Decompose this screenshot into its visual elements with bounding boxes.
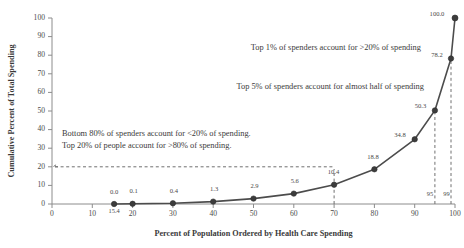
x-tick-label: 20 [129,209,137,218]
y-tick-label: 70 [37,69,45,78]
y-tick-label: 80 [37,50,45,59]
chart-annotations: Top 1% of spenders account for >20% of s… [62,43,425,150]
y-tick-label: 0 [41,199,45,208]
data-point [170,201,175,206]
data-point [432,108,437,113]
y-axis-title: Cumulative Percent of Total Spending [7,44,16,178]
y-tick-label: 60 [37,87,45,96]
special-x-labels: 15.4 95 99 [109,190,450,214]
y-tick-label: 90 [37,31,45,40]
y-tick-label: 40 [37,124,45,133]
y-axis-ticks: 0 10 20 30 40 50 60 70 80 90 100 [34,13,52,208]
annotation-bottom-80-percent: Bottom 80% of spenders account for <20% … [62,129,251,138]
data-point-label: 1.3 [210,185,219,192]
chart-container: 0 10 20 30 40 50 60 70 80 90 100 0 [0,0,464,248]
data-point-label: 18.8 [367,153,379,160]
data-point-label: 2.9 [250,182,259,189]
data-point [291,191,296,196]
x-tick-label: 30 [169,209,177,218]
x-tick-label: 60 [290,209,298,218]
data-point-label: 0.0 [110,188,119,195]
data-point-label: 50.3 [415,102,427,109]
special-x-label-95: 95 [427,190,433,197]
y-tick-label: 100 [34,13,46,22]
data-point-labels: 0.0 0.1 0.4 1.3 2.9 5.6 10.4 18.8 34.8 5… [110,10,445,195]
data-point-label: 0.4 [170,187,179,194]
data-point-label: 5.6 [291,177,300,184]
data-point [251,196,256,201]
data-point [452,15,458,21]
data-point-label: 10.4 [328,168,340,175]
annotation-top-5-percent: Top 5% of spenders account for almost ha… [236,82,424,91]
y-tick-label: 10 [37,180,45,189]
data-point [130,201,135,206]
y-tick-label: 30 [37,143,45,152]
reference-arrow-left-icon [53,164,58,167]
data-point [211,199,216,204]
y-tick-label: 50 [37,106,45,115]
x-tick-label: 80 [371,209,379,218]
data-point [412,137,417,142]
x-tick-label: 10 [89,209,97,218]
data-point-label: 34.8 [394,131,406,138]
x-tick-label: 0 [50,209,54,218]
special-x-label-15: 15.4 [109,207,121,214]
x-tick-label: 50 [250,209,258,218]
annotation-top-1-percent: Top 1% of spenders account for >20% of s… [251,43,422,52]
y-tick-label: 20 [37,162,45,171]
x-tick-label: 40 [209,209,217,218]
data-point-label: 0.1 [129,187,137,194]
x-tick-label: 70 [330,209,338,218]
data-point [448,56,453,61]
x-axis-title: Percent of Population Ordered by Health … [154,229,353,238]
data-point-label: 78.2 [431,51,443,58]
data-point [372,167,377,172]
special-x-label-99: 99 [443,190,449,197]
x-tick-label: 100 [449,209,461,218]
chart-plot-area: 0 10 20 30 40 50 60 70 80 90 100 0 [0,0,464,248]
x-tick-label: 90 [411,209,419,218]
annotation-top-20-percent: Top 20% of people account for >80% of sp… [62,141,232,150]
data-point-label: 100.0 [430,10,446,17]
data-point [331,182,336,187]
